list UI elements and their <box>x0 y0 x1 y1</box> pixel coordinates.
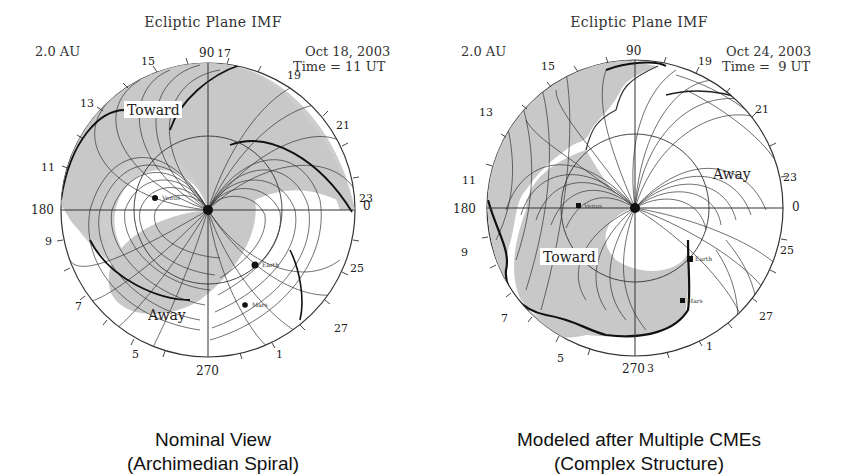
planet-venus: Venus <box>576 202 602 209</box>
angle-label-270: 270 <box>622 362 645 376</box>
svg-text:Earth: Earth <box>695 255 712 262</box>
svg-text:5: 5 <box>557 352 564 365</box>
angle-label-90: 90 <box>626 44 641 58</box>
sector-label-toward: Toward <box>543 249 596 265</box>
svg-text:13: 13 <box>479 106 493 119</box>
sun-marker <box>630 203 640 213</box>
svg-text:13: 13 <box>80 97 94 110</box>
svg-text:19: 19 <box>698 55 712 68</box>
svg-text:Mars: Mars <box>687 297 703 304</box>
svg-text:23: 23 <box>359 192 373 205</box>
svg-text:17: 17 <box>217 47 231 60</box>
caption-line-2: (Archimedian Spiral) <box>0 452 426 476</box>
svg-text:11: 11 <box>462 174 476 187</box>
angle-label-180: 180 <box>31 203 54 217</box>
svg-text:Venus: Venus <box>583 202 602 209</box>
angle-label-0: 0 <box>792 200 800 214</box>
svg-text:11: 11 <box>41 161 55 174</box>
svg-text:7: 7 <box>75 300 82 313</box>
angle-label-90: 90 <box>199 46 214 60</box>
svg-text:1: 1 <box>706 340 713 353</box>
imf-polar-plot: Venus Earth Mars Toward Away <box>0 0 426 420</box>
sector-label-away: Away <box>147 307 186 323</box>
sun-marker <box>203 205 213 215</box>
svg-text:23: 23 <box>783 171 797 184</box>
caption-line-1: Nominal View <box>0 428 426 452</box>
svg-text:15: 15 <box>141 55 155 68</box>
imf-polar-plot: Venus Earth Mars Toward Away 90 18 <box>426 0 852 420</box>
svg-text:Venus: Venus <box>161 194 180 201</box>
angle-label-270: 270 <box>196 364 219 378</box>
panel-nominal-view: Ecliptic Plane IMF 2.0 AU Oct 18, 2003 T… <box>0 0 426 473</box>
svg-text:9: 9 <box>461 246 468 259</box>
caption-line-2: (Complex Structure) <box>426 452 852 476</box>
caption-line-1: Modeled after Multiple CMEs <box>426 428 852 452</box>
planet-mars: Mars <box>680 297 703 304</box>
svg-text:Earth: Earth <box>262 261 279 268</box>
svg-text:19: 19 <box>287 69 301 82</box>
svg-text:27: 27 <box>334 322 348 335</box>
svg-text:9: 9 <box>45 235 52 248</box>
planet-earth: Earth <box>252 261 280 269</box>
svg-text:25: 25 <box>350 262 364 275</box>
panel-multiple-cmes: Ecliptic Plane IMF 2.0 AU Oct 24, 2003 T… <box>426 0 852 473</box>
svg-text:27: 27 <box>759 310 773 323</box>
svg-text:25: 25 <box>780 244 794 257</box>
planet-earth: Earth <box>687 255 712 262</box>
svg-text:5: 5 <box>132 348 139 361</box>
svg-text:7: 7 <box>501 312 508 325</box>
svg-text:21: 21 <box>336 119 350 132</box>
angle-label-180: 180 <box>453 202 476 216</box>
sector-label-away: Away <box>712 166 751 182</box>
svg-text:21: 21 <box>755 103 769 116</box>
svg-text:Mars: Mars <box>252 301 268 308</box>
caption-nominal: Nominal View (Archimedian Spiral) <box>0 428 426 476</box>
svg-text:15: 15 <box>541 60 555 73</box>
sector-label-toward: Toward <box>127 102 180 118</box>
caption-multiple-cmes: Modeled after Multiple CMEs (Complex Str… <box>426 428 852 476</box>
svg-text:1: 1 <box>276 348 283 361</box>
svg-text:3: 3 <box>647 362 654 375</box>
